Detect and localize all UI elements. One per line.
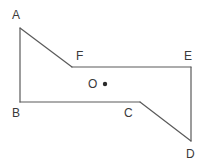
vertex-label-e: E xyxy=(184,50,192,62)
center-point-label-o: O xyxy=(88,78,97,90)
center-point-dot xyxy=(103,82,107,86)
figure-svg xyxy=(0,0,209,168)
edge-dc xyxy=(140,102,191,141)
vertex-label-b: B xyxy=(12,107,20,119)
vertex-label-d: D xyxy=(186,148,195,160)
vertex-label-c: C xyxy=(124,107,133,119)
vertex-label-f: F xyxy=(76,50,83,62)
geometry-figure: A B C D E F O xyxy=(0,0,209,168)
vertex-label-a: A xyxy=(12,9,20,21)
edge-af xyxy=(20,28,72,67)
